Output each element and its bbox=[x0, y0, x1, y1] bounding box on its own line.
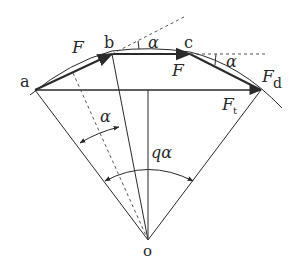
force-label-bc: F bbox=[171, 60, 185, 80]
point-label-b: b bbox=[104, 33, 114, 52]
radius-oa bbox=[35, 90, 148, 240]
force-diagram: a b c o F F F d F t α α α qα bbox=[0, 0, 296, 273]
angle-label-b: α bbox=[148, 33, 159, 52]
point-label-o: o bbox=[143, 242, 152, 260]
angle-label-c: α bbox=[226, 52, 237, 71]
point-label-c: c bbox=[184, 33, 193, 52]
angle-label-left: α bbox=[100, 107, 111, 126]
angle-arc-left bbox=[80, 127, 119, 143]
angle-arc-center bbox=[105, 170, 193, 182]
angle-mark-b bbox=[138, 41, 139, 49]
force-label-d-sub: d bbox=[273, 75, 282, 91]
angle-mark-c bbox=[215, 54, 216, 65]
radius-od bbox=[148, 90, 261, 240]
angle-label-center: qα bbox=[151, 143, 172, 162]
force-label-ab: F bbox=[71, 37, 85, 57]
dashed-bisector-ab bbox=[73, 73, 148, 240]
radius-ob bbox=[112, 54, 148, 240]
force-label-t-sub: t bbox=[233, 105, 237, 116]
force-segment-ab bbox=[35, 54, 112, 90]
rope-arc bbox=[30, 49, 282, 108]
point-label-a: a bbox=[20, 72, 30, 91]
